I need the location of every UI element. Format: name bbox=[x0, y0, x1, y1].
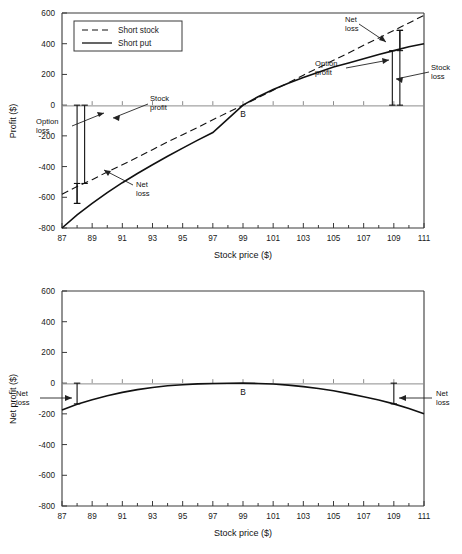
option-loss-label-line2: loss bbox=[36, 126, 50, 135]
top-brackets bbox=[74, 30, 403, 203]
x-tick-label: 91 bbox=[118, 512, 128, 521]
net-loss-left-bracket bbox=[74, 383, 80, 404]
point-label-b: B bbox=[240, 109, 246, 119]
y-tick-label: 0 bbox=[50, 101, 55, 110]
chart-bottom: 6004002000-200-400-600-800 8789919395979… bbox=[0, 280, 462, 554]
option-loss-label-line1: Option bbox=[36, 117, 58, 126]
chart-top-svg: 6004002000-200-400-600-800 8789919395979… bbox=[0, 0, 462, 280]
x-tick-label: 93 bbox=[148, 512, 158, 521]
net-loss-right-bracket bbox=[397, 30, 403, 50]
x-tick-label: 99 bbox=[238, 512, 248, 521]
x-tick-label: 89 bbox=[88, 512, 98, 521]
net-loss-left-label-line1: Net bbox=[136, 180, 149, 189]
x-tick-label: 111 bbox=[418, 234, 431, 243]
y-tick-label: 400 bbox=[41, 318, 55, 327]
stock-loss-label-line2: loss bbox=[431, 72, 445, 81]
chart-bottom-svg: 6004002000-200-400-600-800 8789919395979… bbox=[0, 280, 462, 554]
legend: Short stock Short put bbox=[74, 21, 182, 51]
option-loss-arrow bbox=[97, 112, 104, 117]
x-tick-label: 111 bbox=[418, 512, 431, 521]
x-tick-label: 109 bbox=[387, 234, 401, 243]
option-profit-bracket bbox=[389, 51, 395, 106]
net-loss-right-label-line1: Net bbox=[436, 389, 449, 398]
y-tick-label: 0 bbox=[50, 379, 55, 388]
net-loss-right-bracket bbox=[391, 383, 397, 404]
stock-profit-bracket bbox=[81, 105, 87, 183]
net-loss-right-label-line1: Net bbox=[345, 15, 358, 24]
point-label-b: B bbox=[240, 387, 246, 397]
x-tick-label: 97 bbox=[208, 234, 218, 243]
top-y-axis-title: Profit ($) bbox=[8, 104, 18, 139]
bottom-y-axis-title: Net profit ($) bbox=[8, 374, 18, 424]
x-tick-label: 95 bbox=[178, 234, 188, 243]
y-tick-label: 600 bbox=[41, 9, 55, 18]
net-loss-right-label-line2: loss bbox=[436, 398, 450, 407]
y-tick-label: -400 bbox=[39, 163, 56, 172]
net-loss-left-arrow bbox=[65, 395, 72, 401]
x-tick-label: 105 bbox=[327, 512, 341, 521]
x-tick-label: 103 bbox=[296, 512, 310, 521]
x-tick-label: 101 bbox=[266, 512, 280, 521]
y-tick-label: 200 bbox=[41, 70, 55, 79]
figure-container: 6004002000-200-400-600-800 8789919395979… bbox=[0, 0, 462, 554]
stock-loss-label-line1: Stock bbox=[431, 63, 450, 72]
net-loss-right-arrow bbox=[379, 35, 386, 42]
x-tick-label: 101 bbox=[266, 234, 280, 243]
option-profit-label-line2: profit bbox=[315, 68, 333, 77]
top-x-ticks: 87899193959799101103105107109111 bbox=[57, 223, 430, 243]
y-tick-label: 200 bbox=[41, 348, 55, 357]
x-tick-label: 89 bbox=[88, 234, 98, 243]
net-loss-right-arrow bbox=[399, 395, 406, 401]
net-loss-left-label-line2: loss bbox=[16, 398, 30, 407]
net-loss-left-bracket bbox=[74, 183, 80, 203]
y-tick-label: -800 bbox=[39, 224, 56, 233]
y-tick-label: -400 bbox=[39, 441, 56, 450]
bottom-x-ticks: 87899193959799101103105107109111 bbox=[57, 501, 430, 521]
stock-profit-label-line2: profit bbox=[150, 103, 168, 112]
x-tick-label: 93 bbox=[148, 234, 158, 243]
y-tick-label: 400 bbox=[41, 40, 55, 49]
option-profit-arrow bbox=[382, 58, 389, 64]
x-tick-label: 107 bbox=[357, 512, 371, 521]
x-tick-label: 87 bbox=[57, 512, 67, 521]
stock-profit-label-line1: Stock bbox=[150, 94, 169, 103]
legend-label-short-put: Short put bbox=[118, 39, 152, 48]
net-loss-right-label-line2: loss bbox=[345, 24, 359, 33]
legend-label-short-stock: Short stock bbox=[118, 26, 160, 35]
bottom-y-ticks: 6004002000-200-400-600-800 bbox=[39, 287, 67, 511]
y-tick-label: -800 bbox=[39, 502, 56, 511]
x-tick-label: 91 bbox=[118, 234, 128, 243]
y-tick-label: -600 bbox=[39, 193, 56, 202]
bottom-annotations: Net loss Net loss bbox=[16, 389, 450, 407]
bottom-x-axis-title: Stock price ($) bbox=[214, 528, 272, 538]
x-tick-label: 103 bbox=[296, 234, 310, 243]
x-tick-label: 97 bbox=[208, 512, 218, 521]
y-tick-label: -600 bbox=[39, 471, 56, 480]
x-tick-label: 99 bbox=[238, 234, 248, 243]
net-loss-left-label-line2: loss bbox=[136, 189, 150, 198]
x-tick-label: 87 bbox=[57, 234, 67, 243]
x-tick-label: 105 bbox=[327, 234, 341, 243]
y-tick-label: 600 bbox=[41, 287, 55, 296]
series-short-put-line bbox=[62, 44, 424, 228]
option-profit-label-line1: Option bbox=[315, 59, 337, 68]
stock-profit-arrow bbox=[113, 115, 120, 121]
x-tick-label: 109 bbox=[387, 512, 401, 521]
x-tick-label: 107 bbox=[357, 234, 371, 243]
top-x-axis-title: Stock price ($) bbox=[214, 250, 272, 260]
x-tick-label: 95 bbox=[178, 512, 188, 521]
y-tick-label: -200 bbox=[39, 410, 56, 419]
chart-top: 6004002000-200-400-600-800 8789919395979… bbox=[0, 0, 462, 280]
